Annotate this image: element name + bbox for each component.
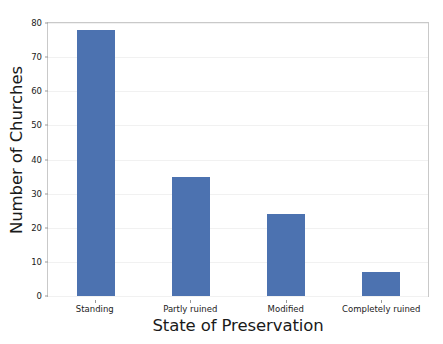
gridline xyxy=(48,296,428,297)
x-tick-label: Modified xyxy=(238,300,334,314)
x-tick-label: Completely ruined xyxy=(334,300,430,314)
y-tick-label: 70 xyxy=(31,52,42,62)
bar-chart-figure: Number of Churches 01020304050607080 Sta… xyxy=(0,0,443,344)
bar-slot xyxy=(48,23,143,296)
x-axis-ticks-group: StandingPartly ruinedModifiedCompletely … xyxy=(47,300,429,314)
x-tick-label: Standing xyxy=(47,300,143,314)
x-tick-mark xyxy=(381,300,382,303)
bar-slot xyxy=(143,23,238,296)
x-tick-label: Partly ruined xyxy=(143,300,239,314)
x-tick-mark xyxy=(190,300,191,303)
bar-slot xyxy=(333,23,428,296)
y-tick-label: 60 xyxy=(31,86,42,96)
bar[interactable] xyxy=(362,272,400,296)
y-tick-label: 0 xyxy=(37,291,42,301)
y-axis-title: Number of Churches xyxy=(3,0,29,300)
y-tick-label: 10 xyxy=(31,257,42,267)
bar[interactable] xyxy=(267,214,305,296)
bar[interactable] xyxy=(172,177,210,296)
y-tick-label: 80 xyxy=(31,18,42,28)
bar-slot xyxy=(238,23,333,296)
x-axis-title: State of Preservation xyxy=(47,316,429,335)
y-tick-label: 40 xyxy=(31,155,42,165)
plot-area: 01020304050607080 xyxy=(47,22,429,297)
bar[interactable] xyxy=(77,30,115,296)
y-tick-label: 50 xyxy=(31,120,42,130)
y-tick-label: 30 xyxy=(31,189,42,199)
x-tick-mark xyxy=(95,300,96,303)
x-tick-mark xyxy=(286,300,287,303)
bars-group xyxy=(48,23,428,296)
y-tick-label: 20 xyxy=(31,223,42,233)
